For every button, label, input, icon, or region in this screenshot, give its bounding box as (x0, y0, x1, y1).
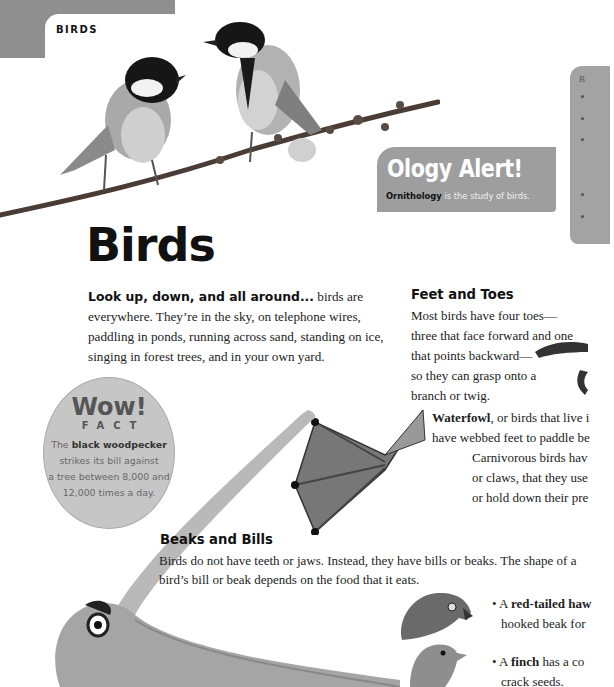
sidebar-box: B (570, 66, 610, 244)
hawk-head-illustration (397, 590, 475, 645)
carnivorous-paragraph: Carnivorous birds hav or claws, that the… (472, 448, 614, 508)
bullet-icon (581, 215, 584, 218)
intro-paragraph: Look up, down, and all around... birds a… (88, 287, 388, 367)
beak-bullet-hawk: • A red-tailed haw hooked beak for (492, 594, 591, 634)
ology-alert-definition: Ornithology is the study of birds. (386, 190, 530, 201)
bullet-icon (581, 138, 584, 141)
beak-bullet-finch: • A finch has a co crack seeds. (492, 652, 584, 687)
ology-alert-box: Ology Alert! Ornithology is the study of… (377, 147, 556, 212)
great-tits-photo (0, 20, 440, 220)
page-title: Birds (86, 218, 215, 272)
finch-head-illustration (405, 643, 467, 687)
bullet-icon (581, 117, 584, 120)
beaks-and-bills-heading: Beaks and Bills (160, 532, 273, 547)
intro-lead: Look up, down, and all around... (88, 289, 314, 304)
feet-and-toes-heading: Feet and Toes (411, 287, 514, 302)
pelican-photo (40, 410, 400, 687)
beaks-and-bills-paragraph: Birds do not have teeth or jaws. Instead… (159, 551, 599, 589)
perching-foot-illustration (535, 330, 588, 400)
waterfowl-paragraph: Waterfowl, or birds that live i have web… (432, 408, 614, 448)
ology-alert-title: Ology Alert! (387, 155, 523, 183)
bullet-icon (581, 193, 584, 196)
sidebar-box-label: B (579, 74, 585, 84)
waterfowl-term: Waterfowl (432, 410, 490, 425)
bullet-icon (581, 95, 584, 98)
ology-term: Ornithology (386, 190, 442, 201)
